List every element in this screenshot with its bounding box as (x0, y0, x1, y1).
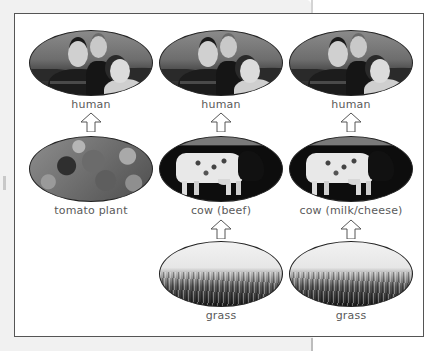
node-cow-milk-cheese: cow (milk/cheese) (289, 136, 413, 217)
grass-photo (289, 241, 413, 307)
node-grass-col2: grass (159, 241, 283, 322)
margin-mark (3, 176, 6, 190)
up-arrow-icon (210, 219, 232, 239)
node-tomato-plant: tomato plant (29, 136, 153, 217)
tomato-photo (29, 136, 153, 202)
node-label: human (29, 98, 153, 111)
node-label: cow (milk/cheese) (289, 204, 413, 217)
family-photo (29, 30, 153, 96)
page-edge-top (311, 0, 313, 14)
node-human-col2: human (159, 30, 283, 111)
up-arrow-icon (340, 112, 362, 132)
node-label: tomato plant (29, 204, 153, 217)
node-label: grass (289, 309, 413, 322)
node-label: human (289, 98, 413, 111)
node-label: human (159, 98, 283, 111)
family-photo (289, 30, 413, 96)
cow-photo (159, 136, 283, 202)
up-arrow-icon (80, 112, 102, 132)
node-cow-beef: cow (beef) (159, 136, 283, 217)
up-arrow-icon (340, 219, 362, 239)
node-human-col3: human (289, 30, 413, 111)
node-label: grass (159, 309, 283, 322)
family-photo (159, 30, 283, 96)
cow-photo (289, 136, 413, 202)
node-human-col1: human (29, 30, 153, 111)
node-label: cow (beef) (159, 204, 283, 217)
up-arrow-icon (210, 112, 232, 132)
grass-photo (159, 241, 283, 307)
page-edge-bottom (311, 338, 313, 351)
node-grass-col3: grass (289, 241, 413, 322)
